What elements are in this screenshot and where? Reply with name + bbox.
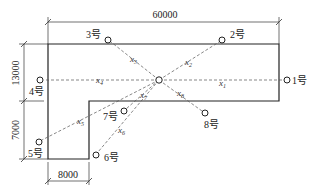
point-4-label: 4号: [29, 86, 44, 97]
point-3-marker: [105, 37, 111, 43]
distance-lines: [42, 42, 283, 152]
measurement-points: 1号 2号 3号 4号 5号 6号 7号 8号: [28, 29, 307, 163]
building-outline: [48, 44, 279, 159]
point-1-marker: [284, 77, 290, 83]
point-4-marker: [37, 77, 43, 83]
point-5-marker: [36, 139, 42, 145]
dimension-bottom: 8000: [45, 162, 92, 185]
point-2-label: 2号: [230, 29, 245, 40]
point-3-label: 3号: [86, 29, 101, 40]
line-label-x4: x4: [95, 75, 103, 86]
dimension-bottom-label: 8000: [58, 169, 78, 180]
dimension-left-upper-label: 13000: [10, 61, 21, 86]
site-plan-diagram: 60000 13000 7000 8000 x1 x2 x3 x: [0, 0, 313, 195]
line-label-x6: x6: [117, 125, 125, 136]
line-label-x3: x3: [129, 54, 137, 65]
dimension-top: 60000: [45, 9, 282, 44]
line-label-x8: x8: [176, 88, 184, 99]
line-label-x7: x7: [139, 90, 148, 101]
dimension-left: 13000 7000: [10, 41, 48, 162]
dimension-left-lower-label: 7000: [10, 120, 21, 140]
point-6-marker: [93, 152, 99, 158]
point-8-marker: [202, 110, 208, 116]
dimension-top-label: 60000: [153, 9, 178, 20]
point-8-label: 8号: [204, 119, 219, 130]
point-7-label: 7号: [103, 111, 118, 122]
point-5-label: 5号: [28, 148, 43, 159]
point-7-marker: [121, 108, 127, 114]
point-2-marker: [219, 37, 225, 43]
line-x5: [42, 80, 159, 140]
line-label-x5: x5: [76, 116, 84, 127]
line-x2: [159, 42, 219, 80]
center-point: [156, 77, 162, 83]
point-1-label: 1号: [292, 75, 307, 86]
line-label-x2: x2: [184, 57, 192, 68]
point-6-label: 6号: [104, 152, 119, 163]
